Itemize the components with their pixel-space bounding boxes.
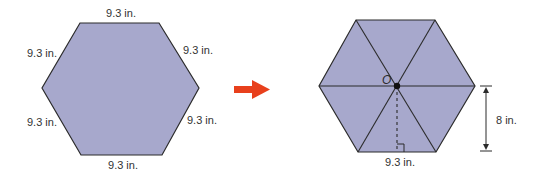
right-arrow-icon (234, 80, 270, 99)
left-hex-upper-right-label: 9.3 in. (183, 44, 213, 56)
left-hex-bottom-label: 9.3 in. (108, 159, 138, 171)
left-hex-lower-right-label: 9.3 in. (187, 114, 217, 126)
height-dimension (480, 86, 492, 151)
center-point (394, 83, 400, 89)
left-hexagon (42, 23, 199, 155)
hexagon-diagram: 9.3 in. 9.3 in. 9.3 in. 9.3 in. 9.3 in. … (0, 0, 538, 172)
left-hex-upper-left-label: 9.3 in. (27, 47, 57, 59)
right-hexagon (319, 20, 475, 152)
left-hex-lower-left-label: 9.3 in. (27, 116, 57, 128)
apothem-label: 8 in. (496, 114, 517, 126)
center-label: O (382, 73, 391, 87)
right-hex-side-label: 9.3 in. (385, 156, 415, 168)
left-hex-top-label: 9.3 in. (106, 7, 136, 19)
